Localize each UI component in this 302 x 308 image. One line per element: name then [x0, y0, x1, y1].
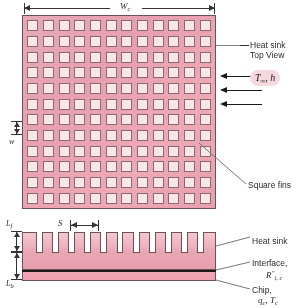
fin-cell — [103, 49, 119, 65]
square-fin — [184, 52, 195, 63]
square-fin — [90, 36, 101, 47]
square-fin — [137, 36, 148, 47]
fin-cell — [166, 96, 182, 112]
fin-cell — [41, 81, 57, 97]
square-fin — [137, 114, 148, 125]
square-fin — [153, 114, 164, 125]
fin-cell — [103, 128, 119, 144]
heat-sink-side-view — [22, 232, 216, 280]
square-fin — [27, 83, 38, 94]
lf-arrow-down — [14, 246, 20, 251]
square-fin — [90, 99, 101, 110]
fin-cell — [150, 49, 166, 65]
square-fin — [106, 52, 117, 63]
fin-cell — [41, 159, 57, 175]
square-fin — [137, 67, 148, 78]
fin-cell — [166, 65, 182, 81]
fin-cell — [88, 65, 104, 81]
square-fin — [184, 83, 195, 94]
fin-cell — [119, 96, 135, 112]
chip-label: Chip, — [252, 285, 272, 295]
square-fin — [106, 177, 117, 188]
square-fin — [59, 130, 70, 141]
fin-cell — [25, 128, 41, 144]
fin-cell — [25, 18, 41, 34]
fin-cell — [166, 128, 182, 144]
square-fin — [43, 52, 54, 63]
fin-cell — [135, 34, 151, 50]
square-fin — [59, 146, 70, 157]
square-fin — [137, 52, 148, 63]
fin-cell — [103, 159, 119, 175]
fin-cell — [135, 18, 151, 34]
square-fin — [121, 36, 132, 47]
square-fin — [184, 99, 195, 110]
square-fin — [168, 193, 179, 204]
square-fin — [59, 20, 70, 31]
square-fins-label: Square fins — [248, 180, 291, 190]
fin-cell — [88, 34, 104, 50]
fin-cell — [182, 159, 198, 175]
fin-cell — [119, 159, 135, 175]
fin-cell — [25, 159, 41, 175]
square-fin — [184, 114, 195, 125]
square-fin — [153, 20, 164, 31]
fin-cell — [182, 143, 198, 159]
square-fin — [43, 193, 54, 204]
ambient-conditions-badge: T∞, h — [250, 70, 280, 86]
fin-cell — [119, 49, 135, 65]
square-fin — [168, 114, 179, 125]
fin-gap — [117, 232, 124, 253]
fin-gap — [197, 232, 204, 253]
square-fin — [43, 114, 54, 125]
fin-cell — [41, 112, 57, 128]
square-fin — [121, 52, 132, 63]
square-fin — [121, 177, 132, 188]
fin-cell — [135, 159, 151, 175]
square-fin — [59, 67, 70, 78]
fin-cell — [41, 190, 57, 206]
fin-cell — [135, 49, 151, 65]
fin-cell — [103, 18, 119, 34]
fin-gap — [100, 232, 107, 253]
square-fin — [184, 20, 195, 31]
w-arrow-down — [14, 129, 20, 134]
square-fin — [74, 130, 85, 141]
square-fin — [168, 83, 179, 94]
square-fin — [121, 130, 132, 141]
square-fin — [121, 161, 132, 172]
fin-gap — [36, 232, 43, 253]
interface-label: Interface, — [252, 258, 287, 268]
fin-cell — [88, 143, 104, 159]
square-fin — [137, 20, 148, 31]
fin-cell — [88, 81, 104, 97]
square-fin — [74, 193, 85, 204]
heat-sink-top-view-label: Heat sink Top View — [250, 40, 285, 60]
square-fin — [90, 67, 101, 78]
fin-cell — [166, 49, 182, 65]
fin-cell — [150, 34, 166, 50]
fin-gap — [165, 232, 172, 253]
fin-gap — [68, 232, 75, 253]
square-fin — [106, 36, 117, 47]
fin-cell — [56, 128, 72, 144]
square-fin — [59, 193, 70, 204]
airflow-arrow-2 — [220, 87, 227, 93]
fin-cell — [103, 175, 119, 191]
fin-cell — [166, 143, 182, 159]
fin-cell — [103, 190, 119, 206]
fin-cell — [182, 18, 198, 34]
square-fin — [27, 20, 38, 31]
fin-cell — [182, 112, 198, 128]
fin-cell — [56, 143, 72, 159]
square-fin — [168, 146, 179, 157]
square-fin — [90, 83, 101, 94]
square-fin — [43, 161, 54, 172]
fin-cell — [182, 175, 198, 191]
fin-cell — [197, 96, 213, 112]
fin-cell — [25, 175, 41, 191]
square-fin — [74, 161, 85, 172]
square-fin — [153, 67, 164, 78]
s-tick-right — [98, 220, 99, 231]
heat-sink-top-view-leader-tail — [216, 45, 240, 46]
